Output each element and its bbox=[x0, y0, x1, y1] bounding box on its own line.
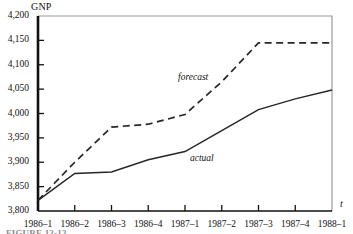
x-axis-tick-label: 1986–4 bbox=[134, 219, 163, 229]
x-axis-tick-label: 1987–3 bbox=[244, 219, 273, 229]
figure-caption: FIGURE 12-12 bbox=[6, 228, 67, 234]
x-axis-tick-label: 1988–1 bbox=[318, 219, 347, 229]
x-axis-tick-labels: 1986–11986–21986–31986–41987–11987–21987… bbox=[0, 0, 353, 234]
x-axis-tick-label: 1987–4 bbox=[281, 219, 310, 229]
x-axis-tick-label: 1987–2 bbox=[208, 219, 237, 229]
series-annotation-actual: actual bbox=[190, 153, 214, 163]
series-annotation-forecast: forecast bbox=[178, 72, 208, 82]
x-axis-tick-label: 1986–3 bbox=[97, 219, 126, 229]
gnp-forecast-chart: GNP t 3,8003,8503,9003,9504,0004,0504,10… bbox=[0, 0, 353, 234]
x-axis-tick-label: 1987–1 bbox=[171, 219, 200, 229]
